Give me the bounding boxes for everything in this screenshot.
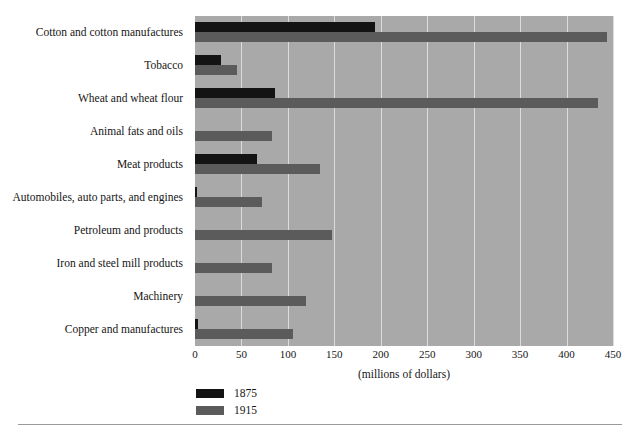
bar bbox=[195, 263, 272, 273]
x-tick-label: 150 bbox=[326, 348, 343, 361]
bar bbox=[195, 88, 275, 98]
gridline-400 bbox=[567, 16, 568, 346]
bar bbox=[195, 319, 198, 329]
gridline-250 bbox=[427, 16, 428, 346]
category-label: Wheat and wheat flour bbox=[0, 92, 183, 104]
legend-swatch bbox=[196, 389, 224, 398]
plot-area bbox=[195, 16, 613, 346]
bar-chart-figure: Cotton and cotton manufacturesTobaccoWhe… bbox=[0, 0, 637, 437]
gridline-200 bbox=[381, 16, 382, 346]
bar bbox=[195, 65, 237, 75]
bar bbox=[195, 154, 257, 164]
footer-rule bbox=[18, 424, 622, 425]
bar bbox=[195, 164, 320, 174]
bar bbox=[195, 197, 262, 207]
legend-item: 1875 bbox=[196, 386, 356, 403]
category-label: Meat products bbox=[0, 158, 183, 170]
x-tick-label: 350 bbox=[512, 348, 529, 361]
bar bbox=[195, 98, 598, 108]
category-label: Animal fats and oils bbox=[0, 125, 183, 137]
gridline-150 bbox=[334, 16, 335, 346]
legend-item: 1915 bbox=[196, 403, 356, 420]
x-tick-label: 250 bbox=[419, 348, 436, 361]
category-label: Petroleum and products bbox=[0, 224, 183, 236]
bar bbox=[195, 32, 607, 42]
category-label: Copper and manufactures bbox=[0, 323, 183, 335]
x-tick-label: 300 bbox=[465, 348, 482, 361]
gridline-350 bbox=[520, 16, 521, 346]
x-tick-label: 0 bbox=[192, 348, 198, 361]
gridline-300 bbox=[474, 16, 475, 346]
x-tick-label: 100 bbox=[280, 348, 297, 361]
x-axis-tick-labels: 050100150200250300350400450 bbox=[195, 348, 613, 364]
category-axis-labels: Cotton and cotton manufacturesTobaccoWhe… bbox=[0, 16, 189, 346]
x-tick-label: 200 bbox=[373, 348, 390, 361]
legend-label: 1915 bbox=[234, 403, 257, 418]
x-tick-label: 400 bbox=[558, 348, 575, 361]
category-label: Cotton and cotton manufactures bbox=[0, 26, 183, 38]
gridline-450 bbox=[613, 16, 614, 346]
legend-swatch bbox=[196, 406, 224, 415]
x-tick-label: 50 bbox=[236, 348, 247, 361]
legend-label: 1875 bbox=[234, 386, 257, 401]
category-label: Tobacco bbox=[0, 59, 183, 71]
category-label: Automobiles, auto parts, and engines bbox=[0, 191, 183, 203]
category-label: Iron and steel mill products bbox=[0, 257, 183, 269]
bar bbox=[195, 329, 293, 339]
bar bbox=[195, 230, 332, 240]
bar bbox=[195, 131, 272, 141]
bar bbox=[195, 22, 375, 32]
x-tick-label: 450 bbox=[605, 348, 622, 361]
bar bbox=[195, 296, 306, 306]
bar bbox=[195, 55, 221, 65]
chart-legend: 18751915 bbox=[196, 386, 356, 420]
category-label: Machinery bbox=[0, 290, 183, 302]
x-axis-title: (millions of dollars) bbox=[195, 368, 613, 380]
bar bbox=[195, 187, 197, 197]
